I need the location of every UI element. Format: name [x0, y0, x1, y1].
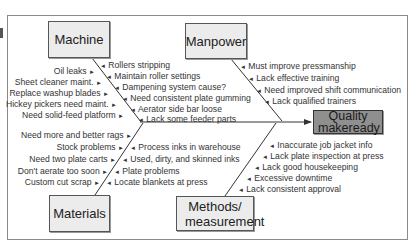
- arrow-left-icon: ◄: [100, 63, 106, 69]
- cause-label: ◄ Process inks in warehouse: [130, 142, 241, 153]
- arrow-right-icon: ►: [126, 133, 132, 139]
- cause-label: ◄ Lack qualified trainers: [264, 96, 356, 107]
- cause-label: ◄ Need improved shift communication: [256, 85, 401, 96]
- cause-label: ◄ Excessive downtime: [246, 173, 332, 184]
- arrow-left-icon: ◄: [130, 107, 136, 113]
- cause-label: ◄ Lack consistent approval: [238, 184, 341, 195]
- cause-label: ◄ Lack good housekeeping: [254, 162, 358, 173]
- arrow-left-icon: ◄: [138, 117, 144, 123]
- arrow-left-icon: ◄: [269, 143, 275, 149]
- cause-label: ◄ Plate problems: [114, 166, 180, 177]
- cause-label: ◄ Used, dirty, and skinned inks: [122, 154, 240, 165]
- arrow-right-icon: ►: [118, 145, 124, 151]
- arrow-right-icon: ►: [118, 113, 124, 119]
- arrow-left-icon: ◄: [114, 169, 120, 175]
- arrow-right-icon: ►: [111, 102, 117, 108]
- cause-label: Oil leaks ►: [54, 66, 95, 77]
- category-box-methods: Methods/ measurement: [176, 196, 254, 231]
- cause-label: Hickey pickers need maint. ►: [6, 99, 117, 110]
- arrow-left-icon: ◄: [106, 180, 112, 186]
- arrow-left-icon: ◄: [262, 154, 268, 160]
- arrow-left-icon: ◄: [130, 145, 136, 151]
- arrow-right-icon: ►: [103, 91, 109, 97]
- arrow-left-icon: ◄: [256, 88, 262, 94]
- cause-label: ◄ Lack effective training: [248, 73, 339, 84]
- cause-label: Need more and better rags ►: [21, 130, 132, 141]
- cause-label: ◄ Need consistent plate gumming: [122, 93, 251, 104]
- cause-label: Don't aerate too soon ►: [18, 166, 108, 177]
- cause-label: ◄ Dampening system cause?: [114, 82, 226, 93]
- arrow-left-icon: ◄: [246, 176, 252, 182]
- cause-label: Replace washup blades ►: [9, 88, 109, 99]
- cause-label: ◄ Lack plate inspection at press: [262, 151, 384, 162]
- cause-label: ◄ Maintain roller settings: [106, 71, 200, 82]
- arrow-right-icon: ►: [110, 157, 116, 163]
- cause-label: ◄ Inaccurate job jacket info: [269, 140, 372, 151]
- cause-label: ◄ Rollers stripping: [100, 60, 170, 71]
- effect-title: Quality makeready: [318, 110, 378, 134]
- arrow-left-icon: ◄: [114, 85, 120, 91]
- cause-label: ◄ Lack some feeder parts: [138, 114, 236, 125]
- category-box-manpower: Manpower: [185, 23, 247, 59]
- cause-label: Stock problems ►: [56, 142, 124, 153]
- category-title: Methods/ measurement: [185, 199, 245, 229]
- arrow-right-icon: ►: [96, 80, 102, 86]
- category-title: Manpower: [186, 34, 247, 49]
- cause-label: Sheet cleaner maint. ►: [15, 77, 102, 88]
- arrow-left-icon: ◄: [254, 165, 260, 171]
- category-box-machine: Machine: [48, 21, 110, 58]
- category-box-materials: Materials: [49, 195, 110, 232]
- category-title: Machine: [54, 32, 103, 47]
- arrow-right-icon: ►: [94, 180, 100, 186]
- arrow-right-icon: ►: [102, 169, 108, 175]
- category-title: Materials: [53, 206, 106, 221]
- cause-label: Need two plate carts ►: [29, 154, 116, 165]
- cause-label: Need solid-feed platform ►: [22, 110, 124, 121]
- cause-label: ◄ Must improve pressmanship: [240, 61, 356, 72]
- arrow-left-icon: ◄: [238, 187, 244, 193]
- arrow-left-icon: ◄: [106, 74, 112, 80]
- arrow-left-icon: ◄: [240, 64, 246, 70]
- effect-box-quality-makeready: Quality makeready: [313, 110, 383, 134]
- arrow-left-icon: ◄: [122, 157, 128, 163]
- arrow-left-icon: ◄: [264, 99, 270, 105]
- cause-label: Custom cut scrap ►: [25, 177, 100, 188]
- arrow-left-icon: ◄: [248, 76, 254, 82]
- arrow-left-icon: ◄: [122, 96, 128, 102]
- cause-label: ◄ Locate blankets at press: [106, 177, 208, 188]
- arrow-right-icon: ►: [89, 69, 95, 75]
